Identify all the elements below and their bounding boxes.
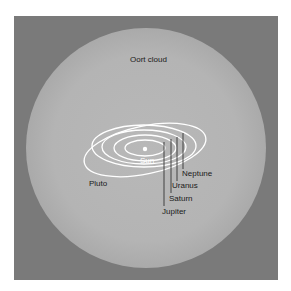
label-pluto: Pluto [89, 180, 107, 188]
label-uranus: Uranus [172, 182, 198, 190]
label-sun: Sun [140, 157, 154, 165]
label-saturn: Saturn [169, 195, 193, 203]
solar-system-orbits [0, 0, 291, 291]
label-jupiter: Jupiter [162, 208, 186, 216]
label-neptune: Neptune [182, 170, 212, 178]
label-oort-cloud: Oort cloud [130, 56, 167, 64]
sun-icon [143, 147, 147, 151]
